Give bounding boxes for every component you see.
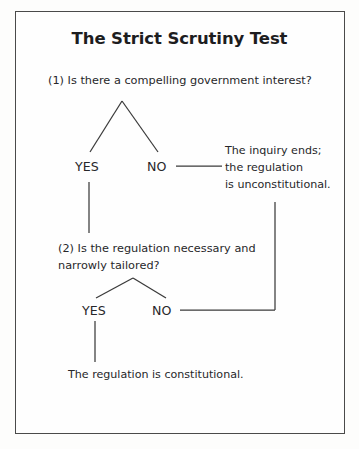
diagram-page: The Strict Scrutiny Test (1) Is there a … <box>0 0 359 449</box>
page-title: The Strict Scrutiny Test <box>0 28 359 50</box>
question-2-line-2: narrowly tailored? <box>58 259 160 272</box>
outcome-constitutional-text: The regulation is constitutional. <box>68 368 244 383</box>
question-1-text: (1) Is there a compelling government int… <box>48 74 312 89</box>
branch-label-yes-q1: YES <box>75 159 99 176</box>
branch-label-no-q2: NO <box>152 303 171 320</box>
outcome-unconstitutional-text: The inquiry ends;the regulationis uncons… <box>225 142 331 194</box>
outcome-unconstitutional-line-3: is unconstitutional. <box>225 178 331 191</box>
question-2-text: (2) Is the regulation necessary andnarro… <box>58 241 256 275</box>
outcome-unconstitutional-line-2: the regulation <box>225 161 303 174</box>
question-2-line-1: (2) Is the regulation necessary and <box>58 242 256 255</box>
outcome-unconstitutional-line-1: The inquiry ends; <box>225 144 322 157</box>
branch-label-yes-q2: YES <box>82 303 106 320</box>
branch-label-no-q1: NO <box>147 159 166 176</box>
